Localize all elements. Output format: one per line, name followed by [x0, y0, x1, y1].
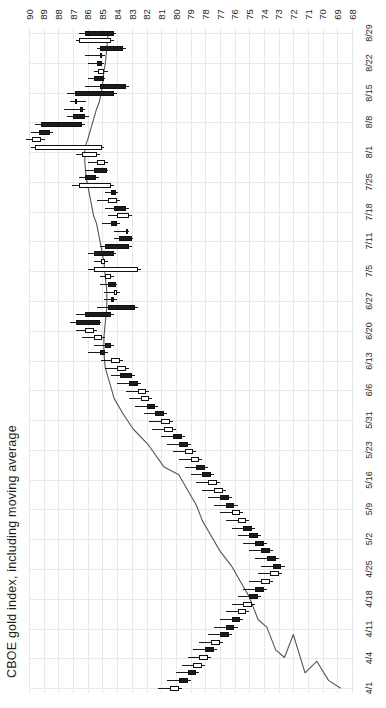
- candle-body: [220, 495, 229, 500]
- price-tick-label: 77: [213, 0, 227, 28]
- date-tick-label: 8/1: [352, 145, 386, 159]
- candle-body: [211, 640, 220, 645]
- candle-body: [267, 556, 276, 561]
- candle-body: [94, 267, 138, 272]
- chart-root: CBOE gold index, including moving averag…: [0, 0, 386, 708]
- date-tick-label: 4/18: [352, 592, 386, 606]
- candle-body: [243, 602, 252, 607]
- date-tick-label: 5/2: [352, 532, 386, 546]
- candle-body: [105, 343, 111, 348]
- candle-body: [100, 84, 126, 89]
- candle-wick: [104, 292, 120, 293]
- chart-title: CBOE gold index, including moving averag…: [0, 0, 24, 708]
- candle-body: [114, 206, 126, 211]
- candle-body: [141, 396, 150, 401]
- candle-body: [196, 465, 205, 470]
- candle-body: [73, 114, 85, 119]
- candle-body: [94, 335, 103, 340]
- candle-body: [220, 632, 229, 637]
- candle-body: [79, 38, 111, 43]
- candle-body: [117, 213, 129, 218]
- price-tick-label: 74: [257, 0, 271, 28]
- date-tick-label: 4/1: [352, 681, 386, 695]
- candle-body: [100, 53, 103, 58]
- date-tick-label: 5/23: [352, 443, 386, 457]
- candle-body: [232, 617, 241, 622]
- price-tick-label: 82: [140, 0, 154, 28]
- candle-body: [232, 510, 241, 515]
- candle-body: [85, 328, 94, 333]
- candle-body: [193, 663, 202, 668]
- candle-body: [101, 259, 105, 264]
- candle-body: [111, 297, 114, 302]
- candle-body: [173, 434, 182, 439]
- price-tick-label: 75: [242, 0, 256, 28]
- candle-body: [35, 145, 103, 150]
- candle-body: [111, 358, 120, 363]
- candle-body: [85, 31, 114, 36]
- candle-body: [82, 152, 97, 157]
- candle-body: [188, 670, 197, 675]
- candle-body: [108, 198, 117, 203]
- candle-body: [80, 107, 83, 112]
- candle-body: [119, 236, 132, 241]
- candle-body: [79, 183, 111, 188]
- candle-body: [126, 229, 129, 234]
- candle-body: [105, 244, 129, 249]
- price-tick-label: 68: [345, 0, 359, 28]
- date-tick-label: 5/31: [352, 413, 386, 427]
- candle-body: [114, 290, 117, 295]
- candle-body: [164, 427, 173, 432]
- date-tick-label: 7/5: [352, 264, 386, 278]
- candle-body: [185, 449, 194, 454]
- candle-wick: [70, 101, 86, 102]
- price-tick-label: 86: [81, 0, 95, 28]
- candle-body: [147, 404, 156, 409]
- candle-body: [199, 655, 208, 660]
- date-tick-label: 4/11: [352, 622, 386, 636]
- price-tick-label: 69: [330, 0, 344, 28]
- price-tick-label: 73: [272, 0, 286, 28]
- price-tick-label: 70: [316, 0, 330, 28]
- date-tick-label: 8/15: [352, 86, 386, 100]
- date-tick-label: 6/27: [352, 294, 386, 308]
- candle-body: [108, 282, 115, 287]
- price-tick-label: 85: [95, 0, 109, 28]
- candle-body: [85, 312, 111, 317]
- candle-body: [261, 579, 270, 584]
- candle-body: [108, 305, 134, 310]
- candle-body: [243, 526, 252, 531]
- date-axis: 8/298/228/158/88/17/257/187/117/56/276/2…: [352, 28, 386, 693]
- candle-body: [85, 175, 97, 180]
- candle-body: [100, 350, 106, 355]
- candle-body: [32, 137, 41, 142]
- candle-body: [161, 419, 170, 424]
- candle-body: [94, 168, 107, 173]
- candle-body: [41, 122, 82, 127]
- date-tick-label: 7/18: [352, 205, 386, 219]
- candle-body: [270, 571, 279, 576]
- candle-body: [120, 373, 132, 378]
- candle-body: [97, 160, 106, 165]
- candle-body: [105, 274, 111, 279]
- price-tick-label: 81: [154, 0, 168, 28]
- date-tick-label: 5/9: [352, 502, 386, 516]
- date-tick-label: 6/13: [352, 354, 386, 368]
- date-tick-label: 6/20: [352, 324, 386, 338]
- plot-area: [29, 28, 352, 693]
- date-tick-label: 4/4: [352, 651, 386, 665]
- price-axis: 9089888786858483828180797877767574737271…: [29, 0, 352, 28]
- date-tick-label: 7/25: [352, 175, 386, 189]
- price-tick-label: 87: [66, 0, 80, 28]
- candle-body: [226, 503, 235, 508]
- price-tick-label: 89: [37, 0, 51, 28]
- candle-body: [94, 76, 104, 81]
- date-tick-label: 7/11: [352, 234, 386, 248]
- price-tick-label: 76: [228, 0, 242, 28]
- candle-body: [100, 46, 124, 51]
- candle-body: [255, 587, 264, 592]
- candle-body: [249, 594, 258, 599]
- candle-body: [138, 389, 147, 394]
- date-tick-label: 5/16: [352, 473, 386, 487]
- candle-body: [179, 442, 188, 447]
